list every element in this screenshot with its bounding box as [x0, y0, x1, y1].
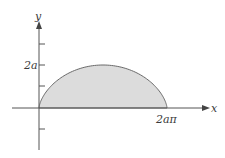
y-axis-label: y: [34, 10, 42, 23]
cycloid-region: [39, 65, 167, 108]
y-tick-label: 2a: [23, 59, 38, 72]
x-axis-label: x: [211, 102, 218, 115]
x-tick-label: 2aπ: [155, 113, 178, 126]
x-axis-arrow-icon: [202, 105, 210, 111]
cycloid-figure: y x 2a 2aπ: [0, 0, 225, 158]
